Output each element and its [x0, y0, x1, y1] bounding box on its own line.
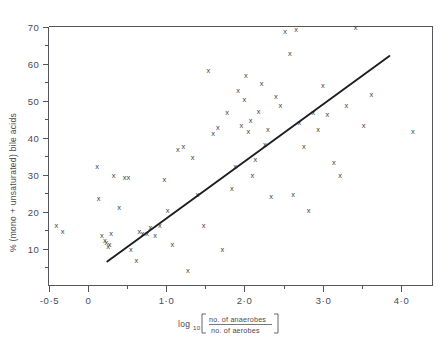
- x-axis-title-log: log: [178, 319, 190, 329]
- y-tick-label: 40: [28, 133, 40, 144]
- y-tick-label: 60: [28, 59, 40, 70]
- data-point: x: [191, 153, 195, 162]
- data-point: x: [221, 245, 225, 254]
- x-axis-title-log-subscript: 10: [193, 324, 201, 331]
- data-point: x: [61, 227, 65, 236]
- data-point: x: [202, 221, 206, 230]
- x-axis-title: log 10 no. of anaerobes no. of aerobes: [178, 314, 278, 335]
- x-tick-label: 3·0: [316, 295, 332, 306]
- data-point: x: [257, 107, 261, 116]
- data-point: x: [108, 240, 112, 249]
- y-tick-label: 10: [28, 244, 40, 255]
- data-point: x: [283, 27, 287, 36]
- y-tick-label: 30: [28, 170, 40, 181]
- data-point: x: [225, 108, 229, 117]
- data-point: x: [170, 240, 174, 249]
- y-axis-title: % (mono + unsaturated) bile acids: [8, 113, 18, 252]
- x-tick-label: 1·0: [159, 295, 175, 306]
- data-point: x: [354, 23, 358, 32]
- data-point: x: [129, 245, 133, 254]
- data-point: x: [97, 194, 101, 203]
- data-point-markers: xxxxxxxxxxxxxxxxxxxxxxxxxxxxxxxxxxxxxxxx…: [54, 23, 415, 274]
- y-tick-label: 50: [28, 96, 40, 107]
- data-point: x: [134, 256, 138, 265]
- data-point: x: [362, 121, 366, 130]
- data-point: x: [332, 158, 336, 167]
- y-axis-tick-labels: 10203040506070: [28, 22, 40, 255]
- data-point: x: [274, 92, 278, 101]
- data-point: x: [321, 81, 325, 90]
- data-point: x: [294, 25, 298, 34]
- data-point: x: [326, 110, 330, 119]
- data-point: x: [216, 123, 220, 132]
- data-point: x: [239, 121, 243, 130]
- data-point: x: [307, 206, 311, 215]
- data-point: x: [166, 206, 170, 215]
- data-point: x: [230, 184, 234, 193]
- data-point: x: [249, 116, 253, 125]
- data-point: x: [186, 266, 190, 275]
- data-point: x: [127, 173, 131, 182]
- x-axis-tick-labels: -0·501·02·03·04·0: [40, 295, 409, 306]
- data-point: x: [163, 175, 167, 184]
- regression-fit-line: [107, 56, 389, 261]
- data-point: x: [244, 71, 248, 80]
- data-point: x: [291, 190, 295, 199]
- data-point: x: [269, 192, 273, 201]
- regression-line: [107, 56, 389, 261]
- data-point: x: [243, 95, 247, 104]
- data-point: x: [260, 79, 264, 88]
- y-axis-title-text: % (mono + unsaturated) bile acids: [8, 113, 18, 252]
- data-point: x: [117, 203, 121, 212]
- data-point: x: [369, 90, 373, 99]
- x-tick-label: -0·5: [40, 295, 59, 306]
- data-point: x: [254, 155, 258, 164]
- data-point: x: [288, 49, 292, 58]
- data-point: x: [181, 142, 185, 151]
- data-point: x: [246, 127, 250, 136]
- data-point: x: [266, 125, 270, 134]
- data-point: x: [95, 162, 99, 171]
- data-point: x: [250, 171, 254, 180]
- plot-canvas: 10203040506070 -0·501·02·03·04·0 xxxxxxx…: [0, 0, 446, 343]
- data-point: x: [54, 221, 58, 230]
- x-axis-fraction-numerator: no. of anaerobes: [209, 315, 266, 324]
- data-point: x: [302, 142, 306, 151]
- data-point: x: [112, 171, 116, 180]
- y-tick-label: 20: [28, 207, 40, 218]
- y-tick-label: 70: [28, 22, 40, 33]
- x-tick-label: 4·0: [394, 295, 410, 306]
- data-point: x: [279, 101, 283, 110]
- data-point: x: [344, 101, 348, 110]
- data-point: x: [109, 229, 113, 238]
- x-tick-label: 0: [86, 295, 92, 306]
- data-point: x: [176, 145, 180, 154]
- data-point: x: [338, 171, 342, 180]
- x-axis-fraction-denominator: no. of aerobes: [211, 326, 260, 335]
- y-axis-ticks: [43, 28, 49, 268]
- data-point: x: [411, 127, 415, 136]
- data-point: x: [211, 129, 215, 138]
- data-point: x: [153, 231, 157, 240]
- x-axis-ticks: [50, 286, 402, 292]
- scatter-plot-figure: 10203040506070 -0·501·02·03·04·0 xxxxxxx…: [0, 0, 446, 343]
- data-point: x: [316, 125, 320, 134]
- x-tick-label: 2·0: [237, 295, 253, 306]
- data-point: x: [236, 86, 240, 95]
- data-point: x: [206, 66, 210, 75]
